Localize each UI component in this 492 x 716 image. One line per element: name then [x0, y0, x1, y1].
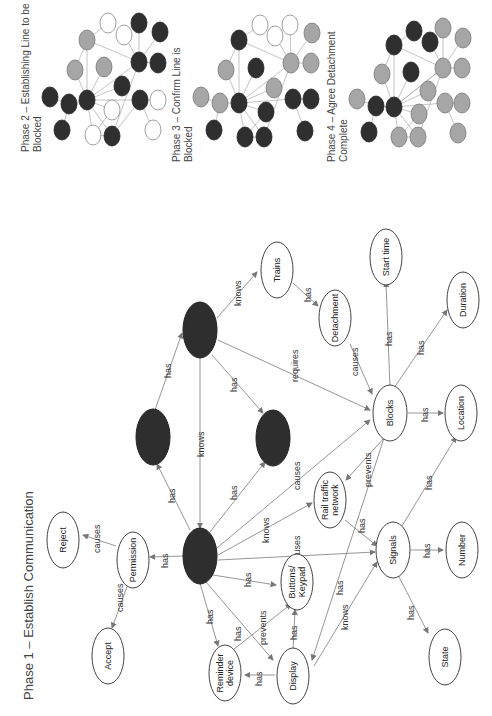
svg-text:has: has	[303, 287, 313, 302]
svg-text:prevents: prevents	[258, 610, 268, 645]
phase4-title: Phase 4 – Agree Detachment Complete	[326, 31, 349, 162]
svg-text:network: network	[330, 484, 340, 516]
svg-text:has: has	[422, 543, 432, 558]
svg-text:has: has	[229, 485, 239, 500]
svg-text:has: has	[384, 331, 394, 346]
svg-text:has: has	[424, 475, 434, 490]
svg-text:requires: requires	[290, 349, 300, 382]
svg-text:Complete: Complete	[338, 119, 349, 162]
svg-text:Phase 3 – Confirm Line is: Phase 3 – Confirm Line is	[171, 47, 182, 162]
node-display: Display	[277, 648, 309, 704]
phase2-title: Phase 2 – Establishing Line to be Blocke…	[20, 3, 43, 152]
node-number: Number	[446, 522, 478, 578]
svg-text:Phase 4 – Agree Detachment: Phase 4 – Agree Detachment	[326, 31, 337, 162]
svg-text:causes: causes	[115, 583, 125, 612]
node-buttons-keypad: Buttons/ Keypad	[281, 554, 313, 610]
svg-text:has: has	[233, 626, 243, 641]
svg-text:Blocked: Blocked	[32, 116, 43, 152]
svg-text:knows: knows	[233, 280, 243, 306]
svg-text:Accept: Accept	[103, 642, 113, 670]
svg-text:device: device	[225, 660, 235, 686]
node-trains: Trains	[261, 242, 293, 298]
svg-text:has: has	[289, 625, 299, 640]
svg-text:Detachment: Detachment	[330, 293, 340, 342]
svg-text:prevents: prevents	[363, 452, 373, 487]
node-duration: Duration	[447, 272, 479, 328]
svg-text:Number: Number	[457, 534, 467, 566]
svg-text:Blocked: Blocked	[183, 126, 194, 162]
svg-text:Trains: Trains	[272, 257, 282, 282]
edge-labels: has causes causes has has knows has has …	[92, 280, 434, 686]
svg-text:knows: knows	[196, 431, 206, 457]
main-edges	[83, 272, 456, 675]
svg-text:has: has	[205, 609, 215, 624]
svg-text:has: has	[254, 671, 264, 686]
svg-text:Signals: Signals	[388, 535, 398, 565]
phase4-graph	[349, 18, 471, 147]
node-start-time: Start time	[370, 229, 402, 285]
node-location: Location	[445, 385, 477, 441]
svg-text:Duration: Duration	[458, 283, 468, 317]
diagram-canvas: Phase 1 – Establish Communication Phase …	[0, 0, 492, 716]
node-reminder-device: Reminder device	[209, 645, 241, 701]
node-state: State	[429, 629, 461, 685]
svg-text:Phase 1 – Establish Communicat: Phase 1 – Establish Communication	[21, 491, 36, 700]
phase1-title: Phase 1 – Establish Communication	[21, 491, 36, 700]
node-blocks: Blocks	[373, 385, 407, 441]
phase3-graph	[193, 15, 320, 147]
svg-text:Permission: Permission	[128, 538, 138, 583]
svg-text:Display: Display	[288, 661, 298, 691]
svg-text:Start time: Start time	[381, 238, 391, 277]
svg-text:Rail traffic: Rail traffic	[320, 480, 330, 520]
phase3-title: Phase 3 – Confirm Line is Blocked	[171, 47, 194, 162]
svg-text:has: has	[406, 605, 416, 620]
svg-text:has: has	[160, 553, 170, 568]
svg-text:has: has	[243, 572, 253, 587]
svg-text:has: has	[420, 407, 430, 422]
node-permission: Permission	[117, 532, 149, 588]
svg-text:Phase 2 – Establishing Line to: Phase 2 – Establishing Line to be	[20, 3, 31, 152]
svg-text:Blocks: Blocks	[385, 399, 395, 426]
phase2-graph	[42, 13, 168, 146]
node-hub-top	[183, 302, 217, 358]
svg-text:causes: causes	[92, 524, 102, 553]
node-dark-a	[136, 409, 170, 465]
node-accept: Accept	[92, 628, 124, 684]
node-hub-central	[183, 528, 217, 584]
svg-text:Reminder: Reminder	[215, 653, 225, 692]
node-reject: Reject	[47, 512, 79, 568]
svg-text:has: has	[167, 488, 177, 503]
svg-text:has: has	[229, 377, 239, 392]
svg-text:Buttons/: Buttons/	[287, 565, 297, 599]
svg-text:has: has	[163, 363, 173, 378]
node-dark-b	[256, 410, 290, 466]
svg-text:causes: causes	[292, 461, 302, 490]
svg-text:Keypad: Keypad	[297, 567, 307, 598]
svg-text:State: State	[440, 646, 450, 667]
svg-text:knows: knows	[340, 604, 350, 630]
svg-text:has: has	[416, 340, 426, 355]
svg-text:has: has	[357, 518, 367, 533]
svg-text:causes: causes	[350, 347, 360, 376]
node-detachment: Detachment	[319, 290, 351, 346]
svg-text:Reject: Reject	[58, 527, 68, 553]
node-signals: Signals	[376, 522, 410, 578]
svg-text:Location: Location	[456, 396, 466, 430]
svg-text:has: has	[335, 580, 345, 595]
node-rail-traffic-network: Rail traffic network	[314, 472, 346, 528]
svg-text:knows: knows	[261, 517, 271, 543]
